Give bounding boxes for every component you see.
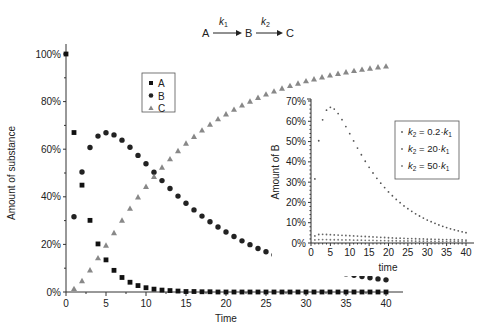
inset-legend: k2 = 0.2·k1k2 = 20·k1k2 = 50·k1 — [395, 121, 459, 179]
inset-y-tick-label: 30% — [286, 177, 306, 188]
y-tick-label: 40% — [41, 191, 61, 202]
inset-x-tick-label: 15 — [364, 247, 376, 258]
legend-label-B: B — [158, 91, 165, 102]
k2-label: k2 — [261, 16, 270, 28]
x-tick-label: 30 — [300, 298, 312, 309]
inset-y-tick-label: 0% — [292, 238, 307, 249]
y-axis-label: Amount of substance — [6, 126, 17, 220]
x-tick-label: 40 — [380, 298, 392, 309]
inset-y-tick-label: 50% — [286, 136, 306, 147]
inset-x-tick-label: 5 — [328, 247, 334, 258]
inset-y-tick-label: 40% — [286, 156, 306, 167]
inset-x-tick-label: 35 — [441, 247, 453, 258]
legend-label-A: A — [158, 78, 165, 89]
y-tick-label: 60% — [41, 144, 61, 155]
k1-label: k1 — [219, 16, 228, 28]
x-tick-label: 35 — [340, 298, 352, 309]
y-tick-label: 0% — [47, 287, 62, 298]
arrow-icon — [277, 30, 283, 36]
species-a: A — [202, 27, 210, 39]
x-tick-label: 25 — [260, 298, 272, 309]
inset-x-tick-label: 10 — [344, 247, 356, 258]
arrow-icon — [236, 30, 242, 36]
main-legend: ABC — [142, 73, 175, 114]
inset-x-tick-label: 40 — [460, 247, 472, 258]
y-tick-label: 100% — [35, 49, 61, 60]
inset-x-axis-label: time — [379, 262, 398, 273]
x-tick-label: 15 — [180, 298, 192, 309]
species-c: C — [286, 27, 294, 39]
x-tick-label: 5 — [103, 298, 109, 309]
inset-x-tick-label: 25 — [402, 247, 414, 258]
species-b: B — [245, 27, 252, 39]
inset-y-axis-label: Amount of B — [270, 144, 281, 199]
legend-label-C: C — [158, 103, 165, 114]
x-axis-label: Time — [215, 313, 237, 324]
x-tick-label: 0 — [63, 298, 69, 309]
inset-x-tick-label: 0 — [308, 247, 314, 258]
inset-y-tick-label: 60% — [286, 116, 306, 127]
inset-y-tick-label: 70% — [286, 96, 306, 107]
reaction-scheme: A k1 B k2 C — [202, 16, 294, 39]
inset-y-tick-label: 20% — [286, 197, 306, 208]
inset-x-tick-label: 30 — [422, 247, 434, 258]
x-tick-label: 20 — [220, 298, 232, 309]
inset-y-tick-label: 10% — [286, 217, 306, 228]
kinetics-chart: A k1 B k2 C 05101520253035400%20%40%60%8… — [0, 0, 490, 336]
y-tick-label: 80% — [41, 96, 61, 107]
x-tick-label: 10 — [140, 298, 152, 309]
y-tick-label: 20% — [41, 239, 61, 250]
inset-x-tick-label: 20 — [383, 247, 395, 258]
